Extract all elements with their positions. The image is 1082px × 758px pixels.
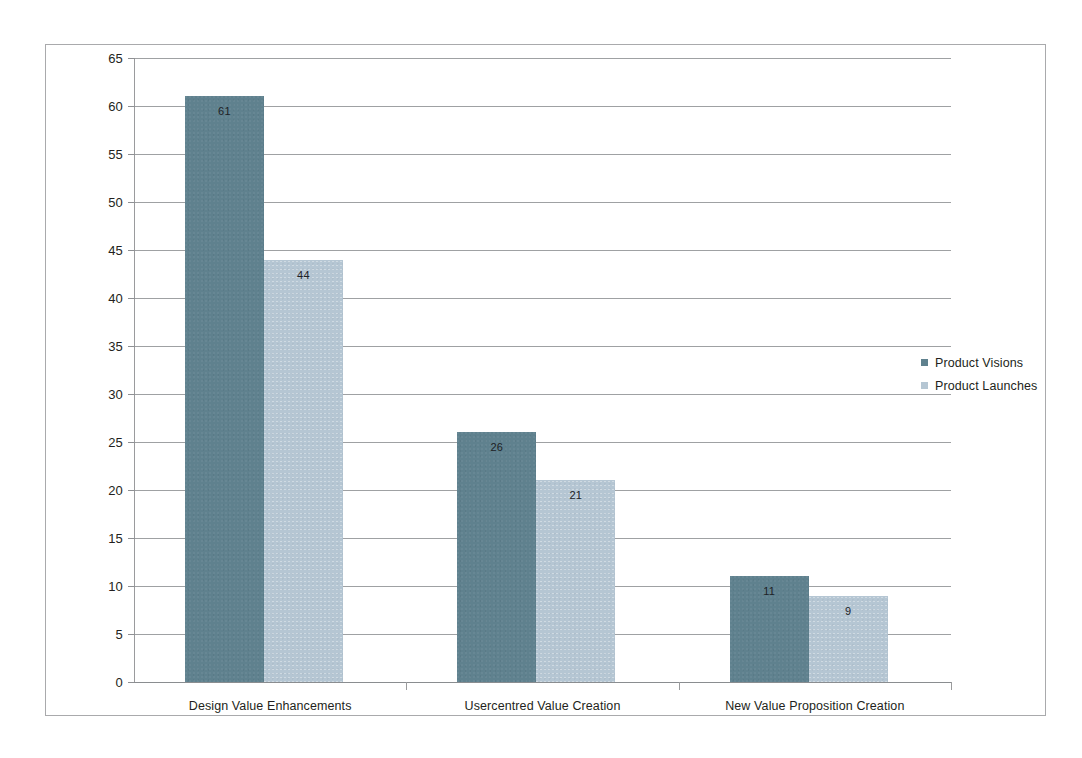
legend-item-1[interactable]: Product Launches	[921, 374, 1037, 397]
bar-value-label: 21	[536, 489, 615, 501]
y-axis-tick	[128, 346, 134, 347]
legend-swatch-icon	[921, 382, 928, 389]
gridline	[134, 682, 951, 683]
y-axis-tick-label: 60	[108, 99, 123, 114]
bar-0-0: 61	[185, 96, 264, 682]
y-axis-tick-label: 50	[108, 195, 123, 210]
bar-1-1: 21	[536, 480, 615, 682]
y-axis-tick-label: 40	[108, 291, 123, 306]
y-axis-tick	[128, 490, 134, 491]
y-axis-tick-label: 25	[108, 435, 123, 450]
y-axis-tick	[128, 586, 134, 587]
y-axis-tick	[128, 58, 134, 59]
bar-value-label: 44	[264, 269, 343, 281]
y-axis-tick	[128, 442, 134, 443]
plot-area: 051015202530354045505560656144Design Val…	[134, 58, 951, 682]
y-axis-tick-label: 5	[116, 627, 123, 642]
y-axis-tick-label: 65	[108, 51, 123, 66]
bar-1-0: 44	[264, 260, 343, 682]
legend-swatch-icon	[921, 359, 928, 366]
legend-label: Product Launches	[935, 379, 1037, 393]
legend-label: Product Visions	[935, 356, 1023, 370]
y-axis-tick-label: 15	[108, 531, 123, 546]
x-axis-category-label: New Value Proposition Creation	[725, 699, 904, 713]
y-axis-tick	[128, 298, 134, 299]
y-axis-tick	[128, 394, 134, 395]
y-axis-tick-label: 55	[108, 147, 123, 162]
y-axis-tick	[128, 250, 134, 251]
y-axis-tick-label: 20	[108, 483, 123, 498]
y-axis-tick	[128, 538, 134, 539]
plot-inner: 051015202530354045505560656144Design Val…	[134, 58, 951, 682]
chart-frame: 051015202530354045505560656144Design Val…	[45, 44, 1046, 716]
x-axis-separator-tick	[406, 682, 407, 690]
bar-value-label: 9	[809, 605, 888, 617]
y-axis-tick-label: 45	[108, 243, 123, 258]
x-axis-separator-tick	[951, 682, 952, 690]
chart-legend: Product VisionsProduct Launches	[921, 351, 1037, 397]
x-axis-category-label: Design Value Enhancements	[189, 699, 352, 713]
bar-value-label: 11	[730, 585, 809, 597]
y-axis-tick	[128, 682, 134, 683]
y-axis-tick	[128, 106, 134, 107]
y-axis-tick	[128, 154, 134, 155]
x-axis-category-label: Usercentred Value Creation	[465, 699, 621, 713]
y-axis-tick	[128, 202, 134, 203]
y-axis-tick-label: 0	[116, 675, 123, 690]
gridline	[134, 58, 951, 59]
bar-value-label: 26	[457, 441, 536, 453]
bar-1-2: 9	[809, 596, 888, 682]
y-axis-tick	[128, 634, 134, 635]
y-axis-tick-label: 35	[108, 339, 123, 354]
bar-0-2: 11	[730, 576, 809, 682]
legend-item-0[interactable]: Product Visions	[921, 351, 1037, 374]
bar-0-1: 26	[457, 432, 536, 682]
y-axis-tick-label: 30	[108, 387, 123, 402]
x-axis-separator-tick	[679, 682, 680, 690]
y-axis-tick-label: 10	[108, 579, 123, 594]
bar-value-label: 61	[185, 105, 264, 117]
